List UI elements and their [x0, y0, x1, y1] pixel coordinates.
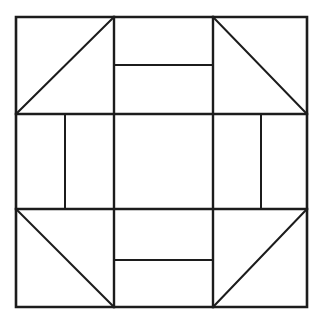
diagram-background [0, 0, 323, 325]
diagram-root [0, 0, 323, 325]
quilt-block-diagram [0, 0, 323, 325]
